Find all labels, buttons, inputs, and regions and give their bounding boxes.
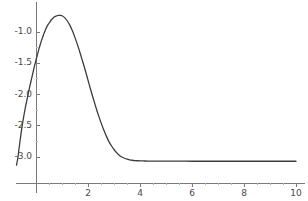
y-tick-label: -2.5 <box>4 121 32 130</box>
data-curve-group <box>17 15 297 165</box>
y-tick-label: -2.0 <box>4 90 32 99</box>
y-tick-label: -1.0 <box>4 27 32 36</box>
x-tick-label: 8 <box>229 189 259 198</box>
plot-figure: -1.0-1.5-2.0-2.5-3.0246810 <box>0 0 308 201</box>
x-tick-label: 6 <box>177 189 207 198</box>
x-tick-label: 2 <box>73 189 103 198</box>
x-tick-label: 10 <box>281 189 308 198</box>
x-tick-label: 4 <box>125 189 155 198</box>
plot-canvas <box>0 0 308 201</box>
y-tick-label: -3.0 <box>4 152 32 161</box>
axes-group <box>16 2 305 193</box>
data-curve <box>17 15 297 165</box>
tick-marks-group <box>36 32 296 187</box>
y-tick-label: -1.5 <box>4 58 32 67</box>
